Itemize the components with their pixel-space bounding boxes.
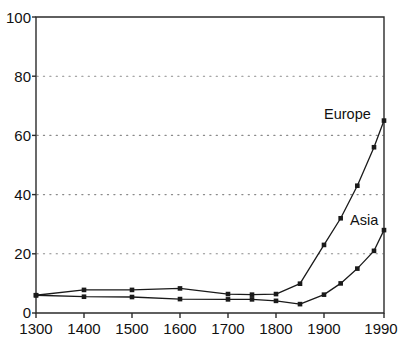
- x-tick-label-1700: 1700: [203, 320, 253, 337]
- series-label-europe: Europe: [324, 106, 371, 122]
- chart-container: 100 80 60 40 20 0 1300 1400 1500 1600 17…: [0, 0, 406, 350]
- y-tick-label-40: 40: [0, 186, 31, 203]
- plot-frame: [36, 17, 384, 313]
- x-tick-label-1990: 1990: [356, 320, 406, 337]
- x-tick-label-1500: 1500: [107, 320, 157, 337]
- x-tick-label-1300: 1300: [11, 320, 61, 337]
- gridlines: [37, 76, 383, 254]
- series-markers: [34, 118, 387, 306]
- series-label-asia: Asia: [350, 212, 378, 228]
- series-lines: [36, 121, 384, 305]
- y-tick-label-100: 100: [0, 9, 31, 26]
- x-tick-label-1800: 1800: [251, 320, 301, 337]
- y-tick-label-80: 80: [0, 68, 31, 85]
- y-tick-label-20: 20: [0, 245, 31, 262]
- plot-area: [0, 0, 406, 350]
- x-tick-label-1400: 1400: [59, 320, 109, 337]
- x-tick-label-1900: 1900: [299, 320, 349, 337]
- y-tick-label-60: 60: [0, 127, 31, 144]
- x-axis-ticks: [36, 313, 384, 318]
- y-tick-label-0: 0: [0, 304, 31, 321]
- x-tick-label-1600: 1600: [155, 320, 205, 337]
